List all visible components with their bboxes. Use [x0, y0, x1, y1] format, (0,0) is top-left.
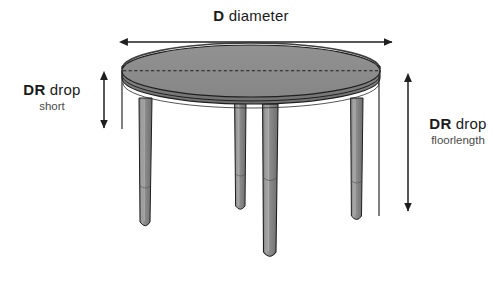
leg-back-left	[139, 98, 152, 226]
leg-back-right	[235, 102, 246, 209]
label-diameter-code: D	[213, 7, 224, 24]
label-drop-short: DR drop short	[8, 82, 96, 112]
label-diameter-text: diameter	[229, 7, 289, 24]
label-drop-short-subtext: short	[8, 100, 96, 112]
label-drop-floorlength-text: drop	[456, 115, 487, 132]
tabletop-surface	[122, 43, 380, 97]
diagram-canvas: D diameter DR drop short DR drop floorle…	[0, 0, 504, 283]
leg-front-right	[351, 98, 363, 220]
label-drop-short-code: DR	[23, 81, 45, 98]
table-legs	[139, 98, 363, 256]
label-diameter: D diameter	[171, 8, 331, 24]
label-drop-floorlength-code: DR	[429, 115, 451, 132]
label-drop-floorlength-subtext: floorlength	[412, 134, 504, 146]
label-drop-short-text: drop	[50, 81, 81, 98]
leg-front-center	[263, 104, 278, 256]
label-drop-floorlength: DR drop floorlength	[412, 116, 504, 146]
table-illustration	[122, 43, 380, 256]
